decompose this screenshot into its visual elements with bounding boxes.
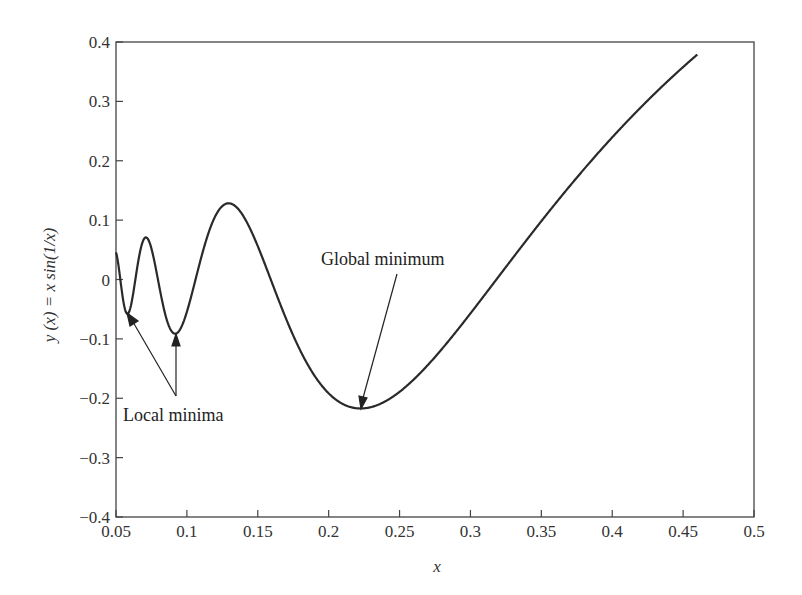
- x-tick-label: 0.15: [243, 522, 273, 541]
- arrowhead-icon: [127, 313, 138, 326]
- x-tick-label: 0.3: [460, 522, 481, 541]
- x-tick-label: 0.35: [526, 522, 556, 541]
- global-minimum-arrow: [359, 274, 397, 409]
- y-tick-label: 0.1: [89, 211, 110, 230]
- local-minima-label: Local minima: [123, 405, 223, 425]
- y-tick-label: −0.4: [79, 508, 110, 527]
- y-axis-label: y (x) = x sin(1/x): [40, 227, 59, 344]
- x-tick-label: 0.5: [743, 522, 764, 541]
- y-tick-label: 0.4: [89, 33, 111, 52]
- function-plot: 0.050.10.150.20.250.30.350.40.450.5 0.40…: [0, 0, 802, 595]
- x-axis-ticks: 0.050.10.150.20.250.30.350.40.450.5: [101, 510, 765, 541]
- global-minimum-label: Global minimum: [321, 249, 445, 269]
- y-tick-label: 0.2: [89, 152, 110, 171]
- local-minima-arrows: [127, 313, 180, 396]
- y-tick-label: −0.1: [79, 330, 110, 349]
- y-tick-label: −0.3: [79, 449, 110, 468]
- function-curve: [116, 55, 697, 409]
- x-tick-label: 0.2: [318, 522, 339, 541]
- arrowhead-icon: [172, 334, 180, 346]
- x-tick-label: 0.45: [668, 522, 698, 541]
- x-axis-label: x: [432, 557, 441, 576]
- x-tick-label: 0.25: [385, 522, 415, 541]
- plot-frame: [116, 42, 754, 517]
- y-tick-label: 0.3: [89, 92, 110, 111]
- x-tick-label: 0.1: [176, 522, 197, 541]
- y-tick-label: −0.2: [79, 389, 110, 408]
- y-tick-label: 0: [102, 271, 111, 290]
- x-tick-label: 0.4: [602, 522, 624, 541]
